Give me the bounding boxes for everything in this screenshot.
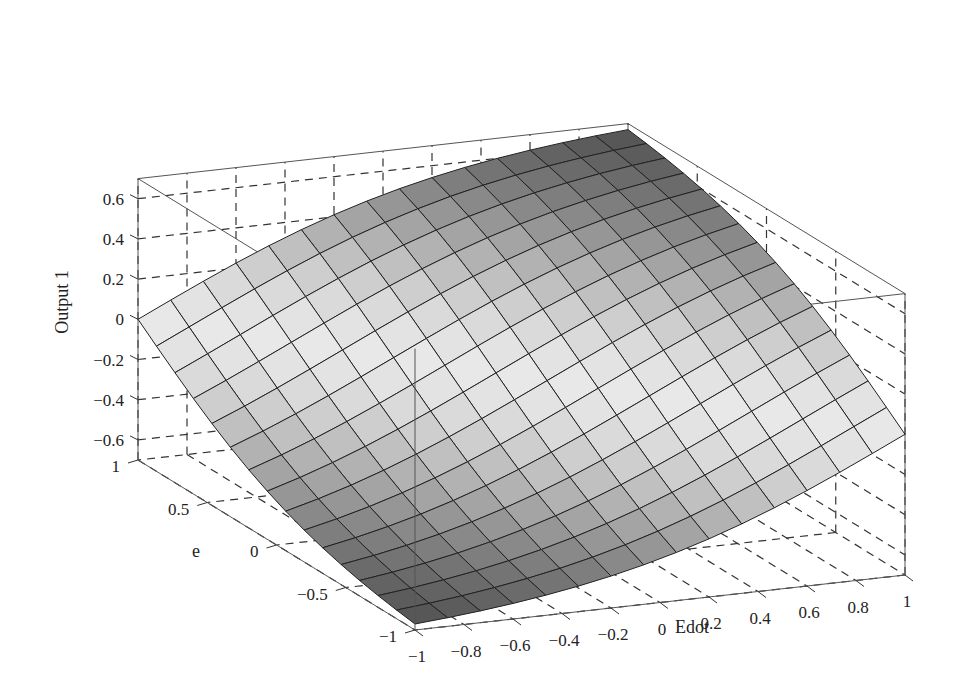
edot-tick-label: −0.6 — [500, 636, 531, 655]
edot-axis-label: Edot — [675, 617, 709, 637]
z-tick-label: 0.6 — [103, 190, 124, 209]
z-axis: −0.6−0.4−0.200.20.40.6 — [93, 190, 138, 450]
edot-tick-label: 0.6 — [798, 603, 819, 622]
e-axis-label: e — [192, 541, 200, 561]
edot-tick-label: 0.4 — [749, 609, 771, 628]
z-axis-label: Output 1 — [52, 270, 72, 334]
z-tick-label: 0 — [116, 310, 125, 329]
z-tick-label: −0.2 — [93, 351, 124, 370]
edot-tick-label: −1 — [408, 647, 426, 666]
e-tick-label: 0 — [250, 542, 259, 561]
z-tick-label: 0.4 — [103, 230, 125, 249]
e-tick-label: −0.5 — [297, 585, 328, 604]
edot-tick-label: 0 — [658, 620, 667, 639]
edot-tick-label: 0.8 — [847, 598, 868, 617]
e-tick-label: 0.5 — [168, 500, 189, 519]
edot-tick-label: −0.2 — [598, 625, 629, 644]
edot-tick-label: −0.8 — [451, 642, 482, 661]
z-tick-label: 0.2 — [103, 270, 124, 289]
z-tick-label: −0.6 — [93, 431, 124, 450]
z-tick-label: −0.4 — [93, 391, 124, 410]
e-tick-label: −1 — [379, 627, 397, 646]
e-tick-label: 1 — [112, 457, 121, 476]
edot-tick-label: −0.4 — [549, 631, 580, 650]
surface-plot: −0.6−0.4−0.200.20.40.6Output 1−1−0.500.5… — [0, 0, 958, 693]
edot-tick-label: 1 — [903, 592, 912, 611]
